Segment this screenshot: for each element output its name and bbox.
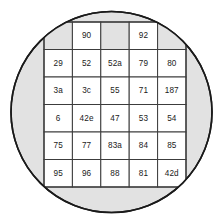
wafer-diagram: 9092295252a79803a3c5571187642e4753547577… (0, 0, 223, 224)
die-cell-label: 92 (139, 31, 149, 40)
die-cell-label: 77 (82, 141, 92, 150)
die-cell-label: 54 (167, 114, 177, 123)
die-cell-label: 53 (139, 114, 149, 123)
die-cell-label: 6 (56, 114, 61, 123)
die-cell-label: 90 (82, 31, 92, 40)
die-grid: 9092295252a79803a3c5571187642e4753547577… (44, 22, 186, 187)
die-cell-label: 52a (108, 59, 122, 68)
die-cell-label: 95 (54, 169, 64, 178)
die-cell-label: 55 (110, 86, 120, 95)
die-cell-label: 47 (110, 114, 120, 123)
die-cell-label: 84 (139, 141, 149, 150)
die-cell-label: 42e (80, 114, 94, 123)
die-cell-label: 187 (165, 86, 179, 95)
die-cell-label: 83a (108, 141, 122, 150)
die-cell-label: 81 (139, 169, 149, 178)
die-cell-label: 42d (165, 169, 179, 178)
wafer-die-map-figure: 9092295252a79803a3c5571187642e4753547577… (0, 0, 223, 224)
die-cell-label: 52 (82, 59, 92, 68)
die-cell-label: 29 (54, 59, 64, 68)
die-cell-empty[interactable] (158, 22, 186, 50)
die-cell-label: 3a (54, 86, 64, 95)
die-cell-label: 88 (110, 169, 120, 178)
die-cell-label: 3c (82, 86, 91, 95)
die-cell-label: 79 (139, 59, 149, 68)
die-cell-empty[interactable] (101, 22, 129, 50)
die-cell-label: 85 (167, 141, 177, 150)
die-cell-label: 80 (167, 59, 177, 68)
die-cell-label: 71 (139, 86, 149, 95)
die-cell-label: 75 (54, 141, 64, 150)
die-cell-label: 96 (82, 169, 92, 178)
